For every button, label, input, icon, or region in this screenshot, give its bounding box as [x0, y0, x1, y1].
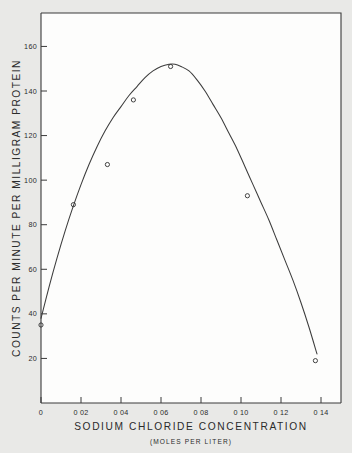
x-tick-label: 0 10	[233, 408, 248, 417]
y-tick-label: 40	[28, 309, 37, 318]
x-tick-label: 0 04	[113, 408, 128, 417]
x-tick-label: 0 14	[313, 408, 328, 417]
x-tick-label: 0	[39, 408, 43, 417]
x-axis-title: SODIUM CHLORIDE CONCENTRATION	[74, 421, 308, 432]
x-axis-units-label: (MOLES PER LITER)	[150, 438, 232, 446]
sodium-chloride-activity-chart: 20406080100120140160 00 020 040 060 080 …	[0, 0, 352, 453]
y-axis-title: COUNTS PER MINUTE PER MILLIGRAM PROTEIN	[11, 59, 22, 357]
y-tick-label: 80	[28, 220, 37, 229]
x-tick-label: 0 08	[193, 408, 208, 417]
x-tick-label: 0 12	[273, 408, 288, 417]
y-tick-label: 100	[24, 176, 37, 185]
chart-figure: 20406080100120140160 00 020 040 060 080 …	[0, 0, 352, 453]
y-tick-label: 140	[24, 87, 37, 96]
y-tick-label: 60	[28, 265, 37, 274]
y-tick-label: 160	[24, 42, 37, 51]
y-tick-label: 120	[24, 131, 37, 140]
x-tick-label: 0 06	[153, 408, 168, 417]
x-tick-label: 0 02	[73, 408, 88, 417]
plot-area-background	[41, 13, 341, 403]
y-tick-label: 20	[28, 354, 37, 363]
